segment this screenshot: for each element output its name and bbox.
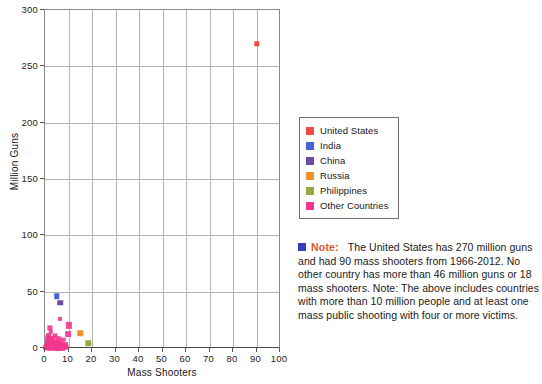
y-gridline — [45, 235, 279, 236]
data-point — [58, 345, 64, 351]
x-tick-mark — [91, 348, 92, 352]
legend-item[interactable]: Philippines — [306, 183, 389, 198]
legend-item[interactable]: China — [306, 153, 389, 168]
data-point — [58, 300, 64, 306]
legend-label: Philippines — [320, 185, 367, 196]
y-gridline — [45, 66, 279, 67]
x-tick-label: 0 — [41, 353, 46, 364]
x-tick-mark — [138, 348, 139, 352]
y-tick-label: 200 — [22, 116, 38, 127]
note-label: Note: — [311, 241, 339, 253]
plot-area — [44, 9, 280, 348]
note-block: Note:The United States has 270 million g… — [298, 241, 542, 323]
note-swatch-icon — [298, 243, 306, 251]
x-tick-label: 20 — [86, 353, 97, 364]
x-tick-mark — [232, 348, 233, 352]
x-tick-label: 10 — [62, 353, 73, 364]
data-point — [65, 332, 71, 338]
y-tick-label-group: 050100150200250300 — [0, 0, 38, 384]
legend-swatch-icon — [306, 172, 314, 180]
legend-swatch-icon — [306, 127, 314, 135]
legend-label: Russia — [320, 170, 350, 181]
y-gridline — [45, 123, 279, 124]
scatter-chart-figure: Million Guns 050100150200250300 Mass Sho… — [0, 0, 542, 384]
data-point — [57, 317, 61, 321]
x-tick-label: 100 — [271, 353, 287, 364]
y-gridline — [45, 179, 279, 180]
data-point — [254, 41, 260, 47]
y-tick-label: 0 — [33, 342, 38, 353]
data-point — [86, 341, 92, 347]
legend-swatch-icon — [306, 157, 314, 165]
x-tick-mark — [115, 348, 116, 352]
x-tick-mark — [279, 348, 280, 352]
y-tick-mark — [40, 9, 44, 10]
x-tick-mark — [68, 348, 69, 352]
x-tick-label: 70 — [203, 353, 214, 364]
legend-item[interactable]: United States — [306, 123, 389, 138]
data-point — [78, 331, 84, 337]
y-tick-label: 50 — [27, 285, 38, 296]
y-tick-mark — [40, 234, 44, 235]
legend-swatch-icon — [306, 142, 314, 150]
legend-label: Other Countries — [320, 200, 389, 211]
y-tick-mark — [40, 122, 44, 123]
x-tick-mark — [256, 348, 257, 352]
x-tick-mark — [44, 348, 45, 352]
right-panel: United StatesIndiaChinaRussiaPhilippines… — [296, 0, 542, 384]
legend-item[interactable]: Russia — [306, 168, 389, 183]
data-point — [66, 322, 72, 328]
x-tick-label: 50 — [156, 353, 167, 364]
data-point — [54, 293, 60, 299]
x-tick-mark — [162, 348, 163, 352]
legend-label: China — [320, 155, 345, 166]
y-tick-mark — [40, 291, 44, 292]
legend-label: United States — [320, 125, 378, 136]
x-tick-label: 60 — [180, 353, 191, 364]
x-tick-mark — [185, 348, 186, 352]
legend-label: India — [320, 140, 341, 151]
y-gridline — [45, 292, 279, 293]
y-tick-label: 250 — [22, 60, 38, 71]
x-tick-label: 30 — [109, 353, 120, 364]
y-tick-label: 150 — [22, 173, 38, 184]
x-tick-mark — [209, 348, 210, 352]
y-tick-mark — [40, 65, 44, 66]
legend-item[interactable]: India — [306, 138, 389, 153]
plot-region: Million Guns 050100150200250300 Mass Sho… — [0, 0, 290, 384]
legend-item[interactable]: Other Countries — [306, 198, 389, 213]
y-tick-label: 300 — [22, 4, 38, 15]
legend-swatch-icon — [306, 202, 314, 210]
y-tick-mark — [40, 178, 44, 179]
y-tick-label: 100 — [22, 229, 38, 240]
chart-legend: United StatesIndiaChinaRussiaPhilippines… — [299, 117, 399, 219]
y-tick-mark — [40, 347, 44, 348]
x-tick-label: 40 — [133, 353, 144, 364]
x-axis-title: Mass Shooters — [44, 367, 280, 378]
x-tick-label: 80 — [227, 353, 238, 364]
legend-swatch-icon — [306, 187, 314, 195]
x-tick-label: 90 — [250, 353, 261, 364]
